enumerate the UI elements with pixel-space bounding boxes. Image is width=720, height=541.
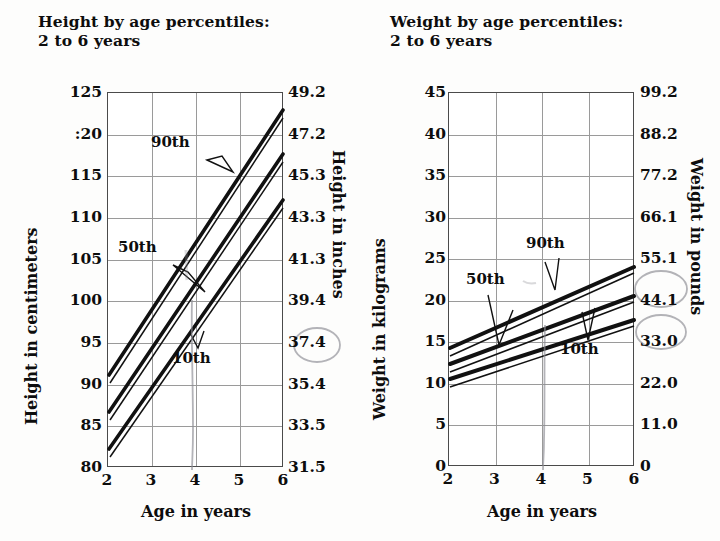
ytick-left: 10 <box>424 375 446 391</box>
ytick-left: 100 <box>70 293 102 309</box>
height-xaxis-title: Age in years <box>141 502 251 521</box>
series-label-10th: 10th <box>560 340 599 358</box>
xtick: 5 <box>234 472 245 488</box>
xtick: 4 <box>536 471 547 487</box>
ytick-right: 77.2 <box>640 167 678 183</box>
ytick-left: 90 <box>80 376 102 392</box>
xtick: 4 <box>190 472 201 488</box>
ytick-right: 33.5 <box>288 418 326 434</box>
xtick: 3 <box>146 472 157 488</box>
ytick-left: 80 <box>80 459 102 475</box>
xtick: 5 <box>582 471 593 487</box>
ytick-right: 43.3 <box>288 209 326 225</box>
ytick-right: 0 <box>640 458 651 474</box>
ytick-right: 49.2 <box>288 84 326 100</box>
weight-chart-panel: Weight by age percentiles: 2 to 6 years <box>360 0 720 541</box>
ytick-left: :20 <box>75 126 102 142</box>
xtick: 2 <box>443 471 454 487</box>
ytick-right: 39.4 <box>288 293 326 309</box>
ytick-right-circled: 37.4 <box>288 334 326 350</box>
height-chart-panel: Height by age percentiles: 2 to 6 years <box>0 0 360 541</box>
height-xticks: 2 3 4 5 6 <box>107 472 283 492</box>
ytick-right: 88.2 <box>640 126 678 142</box>
leader-90th <box>545 258 559 290</box>
series-label-90th: 90th <box>526 234 565 252</box>
weight-xticks: 2 3 4 5 6 <box>448 471 634 491</box>
ytick-left: 20 <box>424 292 446 308</box>
height-yaxis-title-right: Height in inches <box>329 150 348 299</box>
scanned-page: Height by age percentiles: 2 to 6 years <box>0 0 720 541</box>
ytick-left: 5 <box>435 417 446 433</box>
ytick-left: 105 <box>70 251 102 267</box>
ytick-right: 35.4 <box>288 376 326 392</box>
ytick-left: 45 <box>424 84 446 100</box>
height-yticks-left: 125 :20 115 110 105 100 95 90 85 80 <box>44 92 102 467</box>
ytick-left: 25 <box>424 250 446 266</box>
ytick-right: 11.0 <box>640 417 678 433</box>
ytick-right-circled: 44.1 <box>640 292 678 308</box>
weight-yticks-left: 45 40 35 30 25 20 15 10 5 0 <box>388 92 446 466</box>
series-label-50th: 50th <box>466 270 505 288</box>
xtick: 6 <box>278 472 289 488</box>
weight-yaxis-title-left: Weight in kilograms <box>370 238 389 420</box>
curve-50th-shadow <box>110 162 283 420</box>
ytick-left: 40 <box>424 126 446 142</box>
ytick-right: 66.1 <box>640 209 678 225</box>
ytick-left: 110 <box>70 209 102 225</box>
ytick-right: 99.2 <box>640 84 678 100</box>
ytick-right: 47.2 <box>288 126 326 142</box>
ytick-left: 15 <box>424 334 446 350</box>
ytick-right-circled: 33.0 <box>640 334 678 350</box>
ytick-right: 31.5 <box>288 459 326 475</box>
ytick-left: 95 <box>80 334 102 350</box>
ytick-right: 55.1 <box>640 250 678 266</box>
ytick-right: 22.0 <box>640 375 678 391</box>
weight-xaxis-title: Age in years <box>487 502 597 521</box>
ytick-left: 35 <box>424 167 446 183</box>
xtick: 2 <box>102 472 113 488</box>
series-label-50th: 50th <box>118 238 157 256</box>
height-yaxis-title-left: Height in centimeters <box>22 227 41 425</box>
xtick: 6 <box>629 471 640 487</box>
ytick-left: 30 <box>424 209 446 225</box>
ytick-right: 41.3 <box>288 251 326 267</box>
ytick-left: 125 <box>70 84 102 100</box>
series-label-90th: 90th <box>151 133 190 151</box>
leader-90th <box>207 156 233 172</box>
ytick-right: 45.3 <box>288 168 326 184</box>
series-label-10th: 10th <box>172 349 211 367</box>
ytick-left: 85 <box>80 418 102 434</box>
curve-50th <box>109 154 283 412</box>
ytick-left: 115 <box>70 168 102 184</box>
xtick: 3 <box>489 471 500 487</box>
weight-yaxis-title-right: Weight in pounds <box>687 158 706 315</box>
